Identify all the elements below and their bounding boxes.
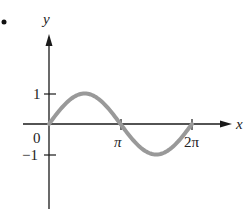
- x-axis-label: x: [235, 116, 243, 132]
- y-axis-arrow-icon: [46, 34, 53, 46]
- bullet-icon: [2, 20, 7, 25]
- x-tick-label-2pi: 2π: [184, 134, 200, 150]
- y-axis-label: y: [41, 11, 50, 27]
- x-tick-label-pi: π: [114, 134, 122, 150]
- y-tick-label-1: 1: [33, 86, 41, 102]
- sine-graph: y x 1 −1 0 π 2π: [0, 0, 250, 209]
- x-axis-arrow-icon: [220, 121, 232, 128]
- origin-label: 0: [33, 130, 41, 146]
- y-tick-label-neg1: −1: [22, 147, 38, 163]
